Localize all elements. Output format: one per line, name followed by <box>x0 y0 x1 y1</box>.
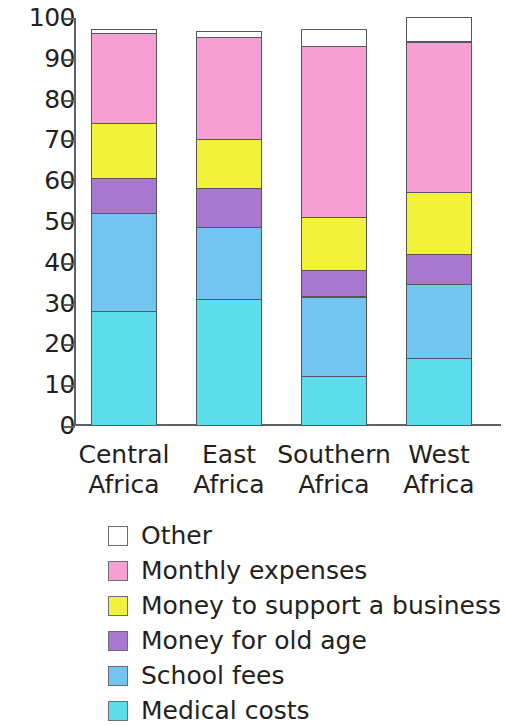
legend-item-other[interactable]: Other <box>0 518 505 553</box>
y-tick-70: 70 <box>0 140 75 142</box>
bar-stack <box>301 30 367 426</box>
chart-legend: OtherMonthly expensesMoney to support a … <box>0 518 505 725</box>
legend-label: Money for old age <box>141 627 367 655</box>
y-tick-mark <box>64 59 75 61</box>
legend-label: Other <box>141 522 212 550</box>
segment-monthly-expenses[interactable] <box>91 33 157 124</box>
y-tick-mark <box>64 100 75 102</box>
category-label-line: Africa <box>374 470 504 500</box>
y-tick-mark <box>64 426 75 428</box>
segment-money-to-support-a-business[interactable] <box>91 123 157 179</box>
y-tick-mark <box>64 222 75 224</box>
bar-west-africa[interactable] <box>406 18 472 426</box>
y-tick-mark <box>64 140 75 142</box>
bar-stack <box>91 30 157 426</box>
segment-other[interactable] <box>91 29 157 34</box>
legend-label: Monthly expenses <box>141 557 367 585</box>
segment-money-for-old-age[interactable] <box>91 178 157 214</box>
y-tick-0: 0 <box>0 426 75 428</box>
y-tick-40: 40 <box>0 263 75 265</box>
segment-other[interactable] <box>196 31 262 38</box>
legend-swatch-icon <box>108 561 128 581</box>
y-tick-60: 60 <box>0 181 75 183</box>
legend-item-monthly-expenses[interactable]: Monthly expenses <box>0 553 505 588</box>
segment-medical-costs[interactable] <box>301 376 367 426</box>
legend-item-money-for-old-age[interactable]: Money for old age <box>0 623 505 658</box>
segment-monthly-expenses[interactable] <box>196 37 262 140</box>
segment-school-fees[interactable] <box>406 284 472 358</box>
legend-label: Money to support a business <box>141 592 501 620</box>
y-tick-mark <box>64 181 75 183</box>
segment-monthly-expenses[interactable] <box>406 42 472 194</box>
segment-medical-costs[interactable] <box>406 358 472 426</box>
segment-money-to-support-a-business[interactable] <box>301 217 367 271</box>
y-tick-mark <box>64 18 75 20</box>
segment-school-fees[interactable] <box>301 297 367 378</box>
legend-item-school-fees[interactable]: School fees <box>0 658 505 693</box>
y-tick-10: 10 <box>0 385 75 387</box>
segment-school-fees[interactable] <box>196 227 262 299</box>
segment-money-to-support-a-business[interactable] <box>406 192 472 254</box>
segment-medical-costs[interactable] <box>91 311 157 426</box>
segment-other[interactable] <box>301 29 367 46</box>
bar-east-africa[interactable] <box>196 32 262 426</box>
segment-school-fees[interactable] <box>91 213 157 312</box>
y-tick-20: 20 <box>0 344 75 346</box>
legend-item-medical-costs[interactable]: Medical costs <box>0 693 505 725</box>
legend-label: Medical costs <box>141 697 310 725</box>
legend-swatch-icon <box>108 666 128 686</box>
legend-item-money-to-support-a-business[interactable]: Money to support a business <box>0 588 505 623</box>
category-label-west-africa: WestAfrica <box>374 440 504 500</box>
x-axis-category-labels: CentralAfricaEastAfricaSouthernAfricaWes… <box>0 432 505 502</box>
segment-money-for-old-age[interactable] <box>196 188 262 228</box>
legend-swatch-icon <box>108 631 128 651</box>
bar-central-africa[interactable] <box>91 30 157 426</box>
plot-area: 0102030405060708090100 <box>0 0 505 440</box>
y-tick-30: 30 <box>0 304 75 306</box>
bar-stack <box>196 32 262 426</box>
bar-southern-africa[interactable] <box>301 30 367 426</box>
segment-other[interactable] <box>406 17 472 42</box>
legend-swatch-icon <box>108 526 128 546</box>
legend-swatch-icon <box>108 596 128 616</box>
y-tick-mark <box>64 263 75 265</box>
y-tick-mark <box>64 385 75 387</box>
y-tick-90: 90 <box>0 59 75 61</box>
bar-stack <box>406 18 472 426</box>
legend-label: School fees <box>141 662 285 690</box>
segment-monthly-expenses[interactable] <box>301 46 367 218</box>
segment-money-to-support-a-business[interactable] <box>196 139 262 189</box>
y-tick-mark <box>64 304 75 306</box>
y-tick-100: 100 <box>0 18 75 20</box>
y-tick-80: 80 <box>0 100 75 102</box>
segment-medical-costs[interactable] <box>196 299 262 426</box>
legend-swatch-icon <box>108 701 128 721</box>
segment-money-for-old-age[interactable] <box>301 270 367 298</box>
y-tick-mark <box>64 344 75 346</box>
y-tick-50: 50 <box>0 222 75 224</box>
segment-money-for-old-age[interactable] <box>406 254 472 286</box>
category-label-line: West <box>374 440 504 470</box>
